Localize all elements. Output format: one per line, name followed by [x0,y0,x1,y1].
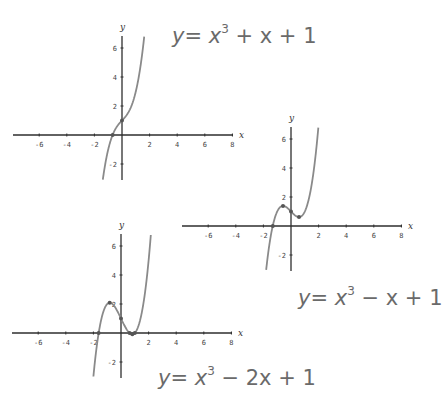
eq-lhs: y [172,24,184,48]
y-tick-label: -2 [109,161,117,169]
y-tick-label: -2 [108,359,116,367]
x-tick-label: 6 [372,232,376,240]
marked-point [271,224,275,228]
x-tick-label: 4 [175,141,179,149]
x-tick-label: 2 [147,141,151,149]
x-tick-label: -6 [34,339,42,347]
eq-equals: = [184,24,202,48]
x-tick-label: -4 [232,232,240,240]
equation-label-1: y= x3 + x + 1 [172,22,317,48]
y-axis-label: y [118,220,125,230]
marked-point [108,301,112,305]
eq-lhs: y [158,366,170,390]
y-tick-label: 4 [113,74,117,82]
y-tick-label: 6 [282,136,286,144]
x-tick-label: 8 [229,339,233,347]
y-tick-label: -2 [278,252,286,260]
x-tick-label: 6 [203,141,207,149]
eq-lhs: y [298,286,310,310]
marked-point [133,331,137,335]
x-tick-label: 4 [344,232,348,240]
equation-label-2: y= x3 − x + 1 [298,284,443,310]
y-tick-label: 6 [113,45,117,53]
x-tick-label: 8 [230,141,234,149]
x-tick-label: 4 [174,339,178,347]
y-tick-label: 4 [112,272,116,280]
eq-rest: − x + 1 [355,286,443,310]
eq-rest: + x + 1 [229,24,317,48]
function-curve [93,235,150,376]
eq-power: 3 [347,284,355,298]
x-tick-label: 6 [202,339,206,347]
marked-point [297,215,301,219]
equation-label-3: y= x3 − 2x + 1 [158,364,316,390]
eq-x: x [209,24,221,48]
graph-cubic-minus-x: xy-6-4-22468-2246 [182,113,413,271]
eq-power: 3 [207,364,215,378]
x-axis-label: x [408,221,413,231]
eq-rest: − 2x + 1 [215,366,316,390]
eq-x: x [195,366,207,390]
x-tick-label: -4 [62,339,70,347]
x-tick-label: 2 [316,232,320,240]
eq-equals: = [170,366,188,390]
x-tick-label: -6 [204,232,212,240]
marked-point [119,317,123,321]
marked-point [281,204,285,208]
x-tick-label: 8 [399,232,403,240]
marked-point [111,133,115,137]
x-tick-label: -2 [259,232,267,240]
marked-point [289,210,293,214]
y-tick-label: 4 [282,165,286,173]
x-axis-label: x [239,130,244,140]
y-tick-label: 2 [113,103,117,111]
x-tick-label: 2 [146,339,150,347]
eq-x: x [335,286,347,310]
function-curve [103,37,144,180]
x-tick-label: -2 [90,141,98,149]
eq-equals: = [310,286,328,310]
y-axis-label: y [288,113,295,123]
x-tick-label: -6 [35,141,43,149]
x-axis-label: x [238,328,243,338]
function-curve [266,128,318,270]
eq-power: 3 [221,22,229,36]
y-axis-label: y [119,22,126,32]
marked-point [120,119,124,123]
y-tick-label: 6 [112,243,116,251]
y-tick-label: 2 [282,194,286,202]
graph-cubic-minus-2x: xy-6-4-22468-2246 [12,220,243,378]
marked-point [97,331,101,335]
x-tick-label: -4 [63,141,71,149]
